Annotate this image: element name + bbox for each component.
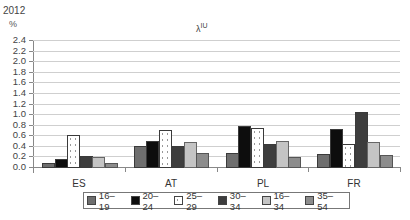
legend-item: 16–34 bbox=[262, 190, 300, 212]
y-tick-label: 0.0 bbox=[2, 162, 26, 172]
legend-label: 25–29 bbox=[186, 190, 212, 212]
gridline bbox=[33, 51, 400, 52]
legend: 16–1920–2425–2930–3416–3435–54 bbox=[83, 192, 350, 209]
y-tick-label: 0.6 bbox=[2, 130, 26, 140]
gridline bbox=[33, 135, 400, 136]
y-tick-label: 1.4 bbox=[2, 88, 26, 98]
chart-title: λIU bbox=[196, 22, 208, 34]
gridline bbox=[33, 82, 400, 83]
bar-es-4 bbox=[92, 157, 105, 168]
legend-swatch bbox=[218, 196, 227, 205]
x-tick-mark bbox=[125, 167, 126, 172]
y-tick-label: 1.6 bbox=[2, 77, 26, 87]
bar-pl-5 bbox=[288, 157, 301, 168]
y-tick-mark bbox=[29, 156, 33, 157]
y-tick-label: 1.0 bbox=[2, 109, 26, 119]
x-category-label: PL bbox=[217, 178, 309, 189]
y-tick-mark bbox=[29, 93, 33, 94]
legend-swatch bbox=[87, 196, 96, 205]
gridline bbox=[33, 93, 400, 94]
y-tick-label: 1.8 bbox=[2, 67, 26, 77]
y-tick-label: 0.8 bbox=[2, 120, 26, 130]
bar-at-5 bbox=[196, 153, 209, 168]
legend-swatch bbox=[174, 196, 183, 205]
legend-item: 35–54 bbox=[305, 190, 343, 212]
gridline bbox=[33, 104, 400, 105]
y-tick-mark bbox=[29, 72, 33, 73]
y-axis bbox=[33, 40, 34, 173]
bar-es-0 bbox=[42, 163, 55, 168]
y-tick-mark bbox=[29, 40, 33, 41]
x-category-label: AT bbox=[125, 178, 217, 189]
bar-at-3 bbox=[171, 146, 184, 168]
y-tick-label: 1.2 bbox=[2, 99, 26, 109]
bar-pl-3 bbox=[263, 144, 276, 168]
legend-label: 35–54 bbox=[317, 190, 343, 212]
legend-swatch bbox=[305, 196, 314, 205]
x-tick-mark bbox=[308, 167, 309, 172]
x-tick-mark bbox=[400, 167, 401, 172]
y-tick-mark bbox=[29, 146, 33, 147]
bar-es-5 bbox=[105, 163, 118, 168]
x-tick-mark bbox=[217, 167, 218, 172]
legend-swatch bbox=[262, 196, 271, 205]
bar-at-1 bbox=[146, 141, 159, 168]
bar-fr-2 bbox=[342, 144, 355, 168]
gridline bbox=[33, 72, 400, 73]
chart-title-superscript: IU bbox=[201, 22, 208, 29]
y-axis-unit: % bbox=[9, 19, 17, 29]
gridline bbox=[33, 114, 400, 115]
legend-label: 30–34 bbox=[230, 190, 256, 212]
bar-fr-4 bbox=[367, 142, 380, 168]
y-tick-label: 0.2 bbox=[2, 151, 26, 161]
y-tick-mark bbox=[29, 104, 33, 105]
legend-label: 20–24 bbox=[143, 190, 169, 212]
y-tick-mark bbox=[29, 51, 33, 52]
gridline bbox=[33, 125, 400, 126]
gridline bbox=[33, 61, 400, 62]
legend-item: 16–19 bbox=[87, 190, 125, 212]
year-label: 2012 bbox=[3, 5, 25, 16]
y-tick-label: 2.2 bbox=[2, 46, 26, 56]
bar-pl-1 bbox=[238, 126, 251, 168]
legend-label: 16–19 bbox=[99, 190, 125, 212]
y-tick-mark bbox=[29, 82, 33, 83]
y-tick-label: 2.4 bbox=[2, 35, 26, 45]
y-tick-mark bbox=[29, 114, 33, 115]
legend-label: 16–34 bbox=[274, 190, 300, 212]
bar-es-2 bbox=[67, 135, 80, 168]
bar-fr-5 bbox=[380, 155, 393, 168]
x-category-label: FR bbox=[308, 178, 400, 189]
x-category-label: ES bbox=[33, 178, 125, 189]
y-tick-mark bbox=[29, 61, 33, 62]
legend-swatch bbox=[131, 196, 140, 205]
x-tick-mark bbox=[33, 167, 34, 172]
legend-item: 25–29 bbox=[174, 190, 212, 212]
y-tick-label: 0.4 bbox=[2, 141, 26, 151]
gridline bbox=[33, 40, 400, 41]
legend-item: 30–34 bbox=[218, 190, 256, 212]
legend-item: 20–24 bbox=[131, 190, 169, 212]
bar-fr-0 bbox=[317, 154, 330, 168]
y-tick-label: 2.0 bbox=[2, 56, 26, 66]
y-tick-mark bbox=[29, 135, 33, 136]
y-tick-mark bbox=[29, 125, 33, 126]
